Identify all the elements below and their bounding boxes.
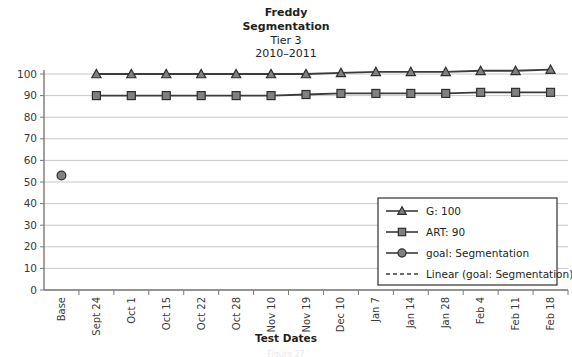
x-tick-label-12: Feb 4	[475, 297, 486, 324]
data-point-1-7	[337, 89, 345, 97]
title-line-1: Segmentation	[242, 20, 329, 33]
x-tick-label-14: Feb 18	[545, 297, 556, 331]
legend-marker-square	[398, 228, 405, 235]
chart-legend: G: 100ART: 90goal: SegmentationLinear (g…	[378, 198, 572, 285]
title-line-3: 2010–2011	[255, 47, 317, 60]
y-tick-label-20: 20	[24, 240, 37, 252]
x-tick-label-11: Jan 28	[440, 297, 451, 329]
data-point-2-0	[57, 171, 66, 180]
y-tick-label-0: 0	[30, 284, 37, 296]
data-point-1-9	[407, 89, 415, 97]
x-tick-label-8: Dec 10	[335, 297, 346, 332]
title-line-0: Freddy	[265, 6, 308, 19]
legend-label-0: G: 100	[426, 205, 461, 217]
data-point-1-3	[197, 92, 205, 100]
y-tick-label-90: 90	[24, 89, 37, 101]
data-point-1-6	[302, 91, 310, 99]
x-tick-label-1: Sept 24	[91, 297, 102, 336]
y-tick-label-10: 10	[24, 262, 37, 274]
x-tick-label-5: Oct 28	[231, 297, 242, 330]
y-tick-label-80: 80	[24, 111, 37, 123]
data-point-1-11	[477, 88, 485, 96]
cropped-figure-caption: Figure 27	[0, 350, 572, 357]
data-point-1-12	[512, 88, 520, 96]
x-tick-label-10: Jan 14	[405, 297, 416, 329]
y-tick-label-30: 30	[24, 219, 37, 231]
x-tick-label-2: Oct 1	[126, 297, 137, 324]
x-tick-label-0: Base	[56, 297, 67, 321]
x-axis-labels: BaseSept 24Oct 1Oct 15Oct 22Oct 28Nov 10…	[56, 290, 568, 336]
chart-figure: FreddySegmentationTier 32010–20110102030…	[0, 0, 572, 357]
x-tick-label-13: Feb 11	[510, 297, 521, 331]
series-g-100	[92, 65, 555, 78]
data-point-1-8	[372, 89, 380, 97]
x-tick-label-7: Nov 19	[301, 297, 312, 332]
legend-label-2: goal: Segmentation	[426, 247, 529, 259]
y-tick-label-40: 40	[24, 197, 37, 209]
x-tick-label-3: Oct 15	[161, 297, 172, 330]
title-line-2: Tier 3	[269, 34, 301, 47]
data-point-1-13	[547, 88, 555, 96]
x-tick-label-4: Oct 22	[196, 297, 207, 330]
y-tick-label-60: 60	[24, 154, 37, 166]
x-tick-label-9: Jan 7	[370, 297, 381, 323]
data-point-1-2	[162, 92, 170, 100]
y-tick-label-70: 70	[24, 132, 37, 144]
legend-label-1: ART: 90	[426, 226, 465, 238]
x-axis-title: Test Dates	[255, 332, 317, 344]
series-goal-segmentation	[57, 171, 66, 180]
chart-title: FreddySegmentationTier 32010–2011	[242, 6, 329, 60]
y-tick-label-50: 50	[24, 176, 37, 188]
series-art-90	[92, 88, 554, 99]
y-tick-label-100: 100	[17, 68, 37, 80]
data-point-1-10	[442, 89, 450, 97]
data-point-1-4	[232, 92, 240, 100]
data-point-1-5	[267, 92, 275, 100]
data-point-1-0	[92, 92, 100, 100]
x-tick-label-6: Nov 10	[266, 297, 277, 332]
legend-label-3: Linear (goal: Segmentation)	[426, 268, 572, 280]
data-point-1-1	[127, 92, 135, 100]
legend-marker-circle	[398, 249, 406, 257]
chart-canvas: FreddySegmentationTier 32010–20110102030…	[0, 0, 572, 357]
